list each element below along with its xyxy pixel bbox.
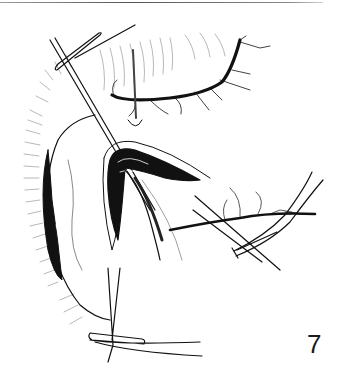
left-flap (43, 115, 110, 320)
figure-number: 7 (307, 331, 321, 357)
surgical-illustration (0, 0, 345, 385)
vessel-top (112, 36, 270, 126)
vessel-right (170, 188, 315, 270)
incision (103, 141, 210, 260)
lower-needle-holder (89, 268, 202, 362)
